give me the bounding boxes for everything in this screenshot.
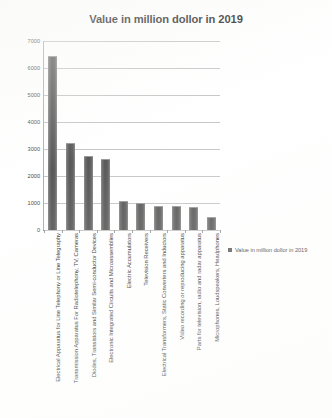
y-axis-tick-label: 7000	[6, 38, 40, 44]
bar[interactable]	[136, 203, 145, 230]
x-axis-tick-label: Electrical Transformers, Static Converte…	[161, 233, 167, 376]
x-axis-tick-label: Electric Accumulators	[126, 233, 132, 288]
x-axis-tick-labels: Electrical Apparatus for Line Telephony …	[44, 233, 229, 413]
x-axis-tick-label: Microphones, Loudspeakers, Headphones	[214, 233, 220, 342]
bar[interactable]	[172, 206, 181, 230]
y-axis-tick-label: 1000	[6, 200, 40, 206]
bar[interactable]	[189, 207, 198, 230]
bar[interactable]	[154, 206, 163, 230]
x-axis-tick-label: Parts for television, radio and radar ap…	[196, 233, 202, 350]
legend-swatch-icon	[228, 248, 232, 252]
y-axis-tick-label: 4000	[6, 119, 40, 125]
y-axis-tick-label: 5000	[6, 92, 40, 98]
legend-label: Value in million dollor in 2019	[235, 247, 307, 253]
chart-title: Value in million dollor in 2019	[0, 13, 332, 25]
x-axis-tick-label: Transmission Apparatus For Radiotelephon…	[73, 233, 79, 383]
bar[interactable]	[84, 156, 93, 230]
x-axis-tick-label: Video recording or reproducing apparatus	[179, 233, 185, 340]
x-axis-tick-label: Television Receivers	[143, 233, 149, 286]
bar[interactable]	[207, 217, 216, 230]
y-axis-tick-label: 6000	[6, 65, 40, 71]
y-axis-tick-label: 2000	[6, 173, 40, 179]
bar[interactable]	[48, 56, 57, 230]
x-axis-tick-label: Electrical Apparatus for Line Telephony …	[55, 233, 61, 382]
y-axis-tick-label: 0	[6, 227, 40, 233]
bar[interactable]	[119, 201, 128, 230]
bar-chart: Value in million dollor in 2019 01000200…	[0, 0, 332, 418]
y-axis-tick-labels: 01000200030004000500060007000	[2, 41, 40, 230]
x-axis-tick-label: Diodes, Transistors and Similar Semi-con…	[91, 233, 97, 377]
bar[interactable]	[66, 143, 75, 230]
bars-layer	[44, 41, 220, 230]
bar[interactable]	[101, 159, 110, 230]
chart-legend: Value in million dollor in 2019	[228, 247, 307, 253]
x-axis-tick-label: Electronic Integrated Circuits and Micro…	[108, 233, 114, 363]
y-axis-tick-label: 3000	[6, 146, 40, 152]
